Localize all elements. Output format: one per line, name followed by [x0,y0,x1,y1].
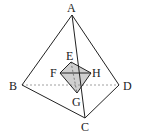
label-b: B [9,79,17,93]
tetrahedron-diagram: A B C D E F H G [0,0,143,138]
label-c: C [81,120,89,134]
geometry-figure: A B C D E F H G [0,0,143,138]
edge-cd [85,85,119,118]
label-f: F [50,66,57,80]
label-h: H [92,66,101,80]
label-d: D [123,79,132,93]
shaded-quadrilateral-efgh [60,62,91,93]
label-g: G [72,95,81,109]
label-e: E [66,49,73,63]
label-a: A [67,1,76,15]
